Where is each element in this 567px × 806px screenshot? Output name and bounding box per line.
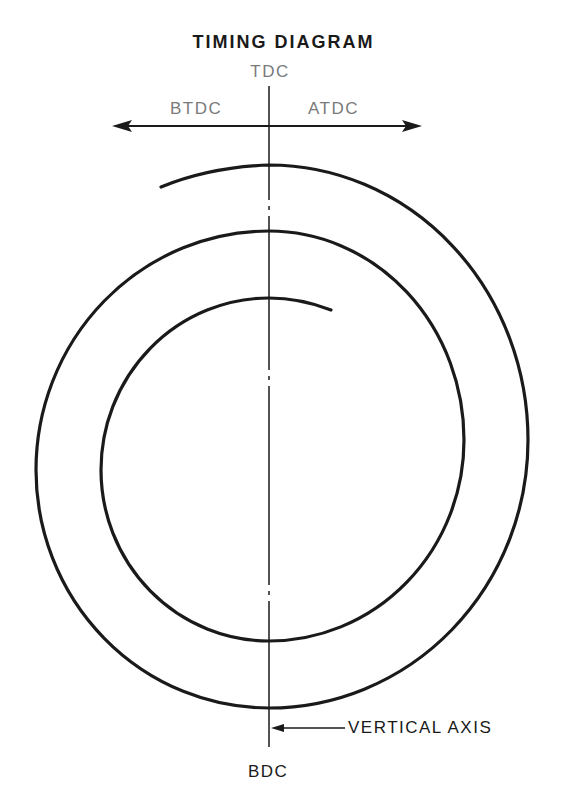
atdc-label: ATDC xyxy=(308,99,359,119)
tdc-label: TDC xyxy=(244,62,296,82)
vertical-axis-label: VERTICAL AXIS xyxy=(348,718,492,738)
bdc-label: BDC xyxy=(248,762,288,782)
diagram-title: TIMING DIAGRAM xyxy=(0,32,567,53)
btdc-label: BTDC xyxy=(170,99,222,119)
callout-arrowhead-icon xyxy=(271,724,284,732)
direction-arrow xyxy=(112,120,422,132)
axis-callout-arrow xyxy=(271,724,345,732)
timing-spiral xyxy=(36,165,528,708)
timing-diagram-canvas xyxy=(0,0,567,806)
